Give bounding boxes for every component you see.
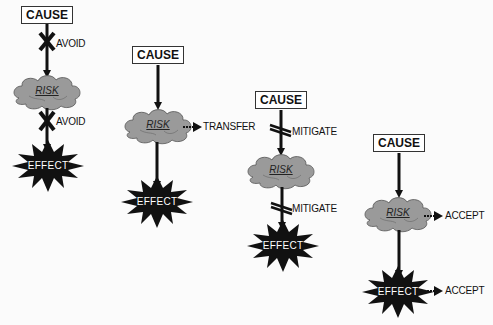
risk-cloud-label: RISK xyxy=(261,164,301,175)
risk-response-diagram: CAUSE AVOID RISK AVOID EFFECT CAUSE RISK… xyxy=(0,0,493,325)
effect-label: EFFECT xyxy=(23,160,73,171)
mitigate-label: MITIGATE xyxy=(292,126,337,137)
mitigate-label: MITIGATE xyxy=(292,203,337,214)
avoid-label: AVOID xyxy=(56,38,85,49)
cause-box: CAUSE xyxy=(255,91,307,109)
avoid-label: AVOID xyxy=(56,116,85,127)
risk-cloud-label: RISK xyxy=(138,119,178,130)
cause-box: CAUSE xyxy=(373,134,425,152)
accept-arrow-icon xyxy=(434,211,443,221)
accept-arrow-icon xyxy=(434,286,443,296)
transfer-arrow-icon xyxy=(193,122,202,132)
effect-label: EFFECT xyxy=(132,196,182,207)
risk-cloud-label: RISK xyxy=(378,207,418,218)
accept-label: ACCEPT xyxy=(445,285,484,296)
accept-label: ACCEPT xyxy=(445,210,484,221)
effect-label: EFFECT xyxy=(258,240,308,251)
risk-cloud-label: RISK xyxy=(27,85,67,96)
transfer-label: TRANSFER xyxy=(203,121,255,132)
cause-box: CAUSE xyxy=(21,6,73,24)
cause-box: CAUSE xyxy=(132,46,184,64)
effect-label: EFFECT xyxy=(373,286,423,297)
